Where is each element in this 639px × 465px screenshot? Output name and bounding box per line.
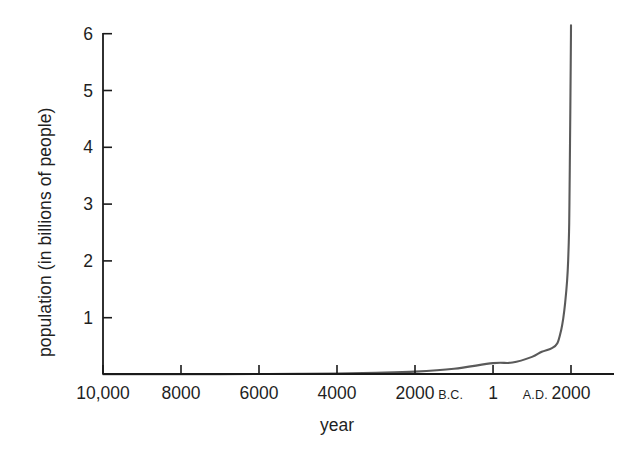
y-tick-label: 5 <box>63 82 93 100</box>
x-tick-label: 1 <box>488 383 498 403</box>
y-tick-label: 2 <box>63 252 93 270</box>
x-tick-label: 2000 B.C. <box>396 383 464 405</box>
x-tick-label: 4000 <box>318 383 357 403</box>
x-tick-label: A.D. 2000 <box>523 383 591 405</box>
x-tick-label: 8000 <box>162 383 201 403</box>
x-tick-number: 6000 <box>240 383 279 403</box>
population-curve <box>103 25 571 374</box>
x-tick-label: 10,000 <box>76 383 130 403</box>
y-tick-label: 4 <box>63 138 93 156</box>
y-tick-label: 1 <box>63 309 93 327</box>
x-tick-era: B.C. <box>434 388 463 402</box>
x-tick-number: 2000 <box>552 383 591 403</box>
x-tick-number: 10,000 <box>76 383 130 403</box>
x-tick-number: 8000 <box>162 383 201 403</box>
y-tick-marks <box>103 34 112 318</box>
y-tick-label: 6 <box>63 25 93 43</box>
y-tick-label: 3 <box>63 195 93 213</box>
x-tick-number: 1 <box>488 383 498 403</box>
population-growth-chart: population (in billions of people) year … <box>0 0 639 465</box>
x-tick-era: A.D. <box>523 388 552 402</box>
x-tick-marks <box>103 365 571 374</box>
x-tick-number: 2000 <box>396 383 435 403</box>
x-tick-label: 6000 <box>240 383 279 403</box>
x-tick-number: 4000 <box>318 383 357 403</box>
